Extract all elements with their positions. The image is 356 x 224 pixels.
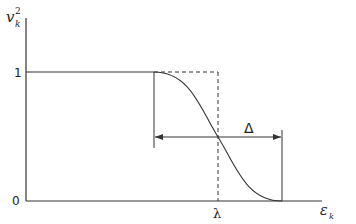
width-label: Δ (244, 120, 254, 136)
lambda-label: λ (213, 206, 221, 221)
x-axis-label: ε (320, 202, 328, 218)
diagram-canvas: v k 2 1 0 Δ λ ε k (0, 0, 356, 224)
y-tick-1: 1 (14, 66, 22, 80)
y-axis-label-sub: k (15, 19, 20, 29)
y-axis-label: v (6, 8, 15, 26)
y-tick-0: 0 (12, 194, 20, 208)
y-axis-label-sup: 2 (15, 6, 21, 16)
x-axis-label-sub: k (329, 212, 334, 221)
